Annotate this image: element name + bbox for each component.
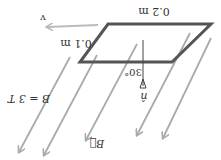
rectangular-loop xyxy=(80,24,211,62)
velocity-label: v xyxy=(40,13,47,24)
angle-label: 30° xyxy=(124,67,142,78)
height-label: 0.1 m xyxy=(60,37,92,50)
physics-diagram: 0.2 m 0.1 m v 30° n̂ B = 3 T B⃗ xyxy=(0,0,221,160)
velocity-arrow xyxy=(47,25,98,27)
field-line-arrow xyxy=(86,44,137,140)
normal-label: n̂ xyxy=(140,90,147,103)
field-line-arrow xyxy=(163,38,211,138)
normal-vector xyxy=(140,40,146,88)
field-vector-label: B⃗ xyxy=(90,137,106,150)
field-line-arrow xyxy=(44,55,97,155)
diagram-canvas: 0.2 m 0.1 m v 30° n̂ B = 3 T B⃗ xyxy=(0,0,221,160)
width-label: 0.2 m xyxy=(138,5,170,18)
field-value-label: B = 3 T xyxy=(6,92,51,105)
